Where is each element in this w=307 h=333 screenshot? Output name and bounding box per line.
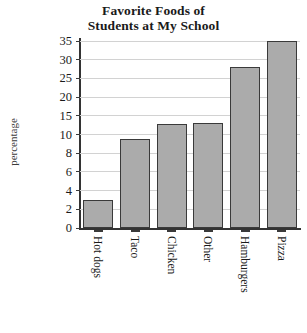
bar — [193, 123, 223, 228]
y-axis-tick-label: 20 — [46, 92, 72, 102]
x-axis-category-label: Hamburgers — [228, 236, 262, 331]
x-axis-line — [79, 228, 301, 230]
x-axis-tick-mark — [131, 230, 140, 232]
y-axis-tick-label: 10 — [46, 130, 72, 140]
x-axis-category-label-text: Taco — [129, 236, 141, 258]
y-axis-tick-label: 15 — [46, 111, 72, 121]
x-axis-tick-mark — [277, 230, 286, 232]
x-axis-category-label: Hot dogs — [81, 236, 115, 331]
y-axis-tick-label: 30 — [46, 55, 72, 65]
x-axis-category-label-text: Hamburgers — [239, 236, 251, 293]
y-axis-tick-label: 8 — [46, 148, 72, 158]
y-axis-tick-label: 6 — [46, 167, 72, 177]
x-axis-category-label: Pizza — [265, 236, 299, 331]
y-axis-tick-label: 2 — [46, 204, 72, 214]
x-axis-category-label-text: Other — [202, 236, 214, 262]
bar-chart: Favorite Foods of Students at My School … — [0, 0, 307, 333]
bar — [267, 41, 297, 228]
y-axis-tick-label: 25 — [46, 73, 72, 83]
chart-title-line-1: Favorite Foods of — [0, 3, 307, 18]
chart-title: Favorite Foods of Students at My School — [0, 3, 307, 33]
bar — [120, 139, 150, 228]
y-axis-title-text: percentage — [7, 118, 19, 166]
y-axis-title: percentage — [4, 82, 22, 202]
bar — [157, 124, 187, 228]
x-axis-tick-mark — [167, 230, 176, 232]
x-axis-category-label-text: Pizza — [276, 236, 288, 261]
x-axis-tick-mark — [94, 230, 103, 232]
bar — [83, 200, 113, 228]
x-axis-tick-mark — [241, 230, 250, 232]
y-axis-tick-label: 4 — [46, 186, 72, 196]
bar-series — [80, 41, 300, 228]
x-axis-category-label-text: Hot dogs — [92, 236, 104, 278]
x-axis-category-label: Chicken — [155, 236, 189, 331]
x-axis-category-label: Other — [191, 236, 225, 331]
y-axis-tick-label: 35 — [46, 36, 72, 46]
plot-area — [80, 41, 300, 228]
x-axis-category-label: Taco — [118, 236, 152, 331]
chart-title-line-2: Students at My School — [0, 18, 307, 33]
x-axis-tick-mark — [204, 230, 213, 232]
x-axis-category-label-text: Chicken — [166, 236, 178, 274]
y-axis-tick-labels: 02468101520253035 — [44, 41, 72, 228]
y-axis-tick-label: 0 — [46, 223, 72, 233]
bar — [230, 67, 260, 228]
